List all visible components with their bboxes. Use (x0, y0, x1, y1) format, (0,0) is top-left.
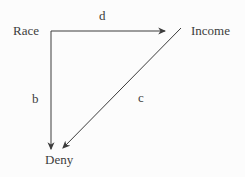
edge-label-b: b (32, 92, 39, 105)
node-income: Income (191, 24, 230, 37)
edge-income-to-deny (63, 28, 181, 148)
edge-label-d: d (99, 9, 106, 22)
edge-label-c: c (138, 91, 144, 104)
node-race: Race (13, 24, 39, 37)
causal-diagram: Race Income Deny d b c (0, 0, 245, 177)
node-deny: Deny (45, 153, 73, 166)
